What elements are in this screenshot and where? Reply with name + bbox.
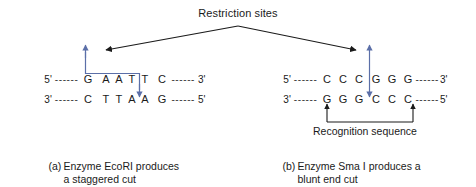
ecori-caption-marker: (a) xyxy=(49,160,64,173)
ecori-bottom-left-end: 3' xyxy=(44,94,51,105)
panel-smai: 5'------CCCGGG------3' 3'------GGGCCC---… xyxy=(0,0,18,187)
smai-caption-line1: Enzyme Sma I produces a xyxy=(298,160,421,172)
smai-top-strand: 5'------CCCGGG------3' xyxy=(265,58,448,72)
smai-bottom-left-dashes: ------ xyxy=(294,94,318,105)
leader-arrow-right xyxy=(238,26,356,50)
smai-bottom-right-end: 5' xyxy=(440,94,447,105)
smai-caption-line2: blunt end cut xyxy=(298,173,358,185)
recognition-sequence-label: Recognition sequence xyxy=(313,125,417,137)
smai-bottom-base-1: G xyxy=(336,92,349,106)
ecori-caption: (a)Enzyme EcoRI producesa staggered cut xyxy=(31,147,179,187)
ecori-bottom-base-5: G xyxy=(155,92,168,106)
ecori-bottom-left-dashes: ------ xyxy=(55,94,79,105)
figure-canvas: Restriction sites xyxy=(0,0,476,187)
ecori-bottom-base-3: A xyxy=(125,92,138,106)
smai-bottom-base-2: G xyxy=(352,92,365,106)
smai-caption-marker: (b) xyxy=(283,160,298,173)
smai-bottom-base-0: G xyxy=(320,92,333,106)
smai-bottom-left-end: 3' xyxy=(283,94,290,105)
smai-caption: (b)Enzyme Sma I produces ablunt end cut xyxy=(265,147,421,187)
leader-arrow-left xyxy=(106,26,238,50)
ecori-bottom-strand: 3'------CTTAAG------5' xyxy=(26,78,206,92)
ecori-bottom-base-4: A xyxy=(138,92,151,106)
smai-bottom-base-4: C xyxy=(385,92,398,106)
ecori-caption-line2: a staggered cut xyxy=(64,173,136,185)
smai-bottom-right-dashes: ------ xyxy=(415,94,439,105)
ecori-top-strand: 5'------GAATTC------3' xyxy=(26,58,206,72)
ecori-bottom-base-2: T xyxy=(112,92,125,106)
ecori-bottom-right-end: 5' xyxy=(198,94,205,105)
smai-bottom-base-3: C xyxy=(369,92,382,106)
ecori-bottom-base-0: C xyxy=(81,92,94,106)
ecori-bottom-base-1: T xyxy=(99,92,112,106)
figure-title: Restriction sites xyxy=(0,7,476,19)
smai-bottom-base-5: C xyxy=(401,92,414,106)
ecori-caption-line1: Enzyme EcoRI produces xyxy=(64,160,180,172)
recognition-bracket xyxy=(327,104,413,122)
smai-bottom-strand: 3'------GGGCCC------5' xyxy=(265,78,448,92)
ecori-bottom-right-dashes: ------ xyxy=(171,94,195,105)
